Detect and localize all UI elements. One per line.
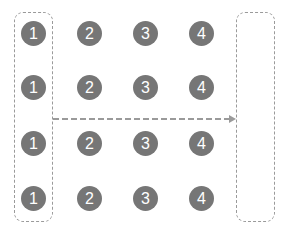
node-r1-c1: 1 bbox=[21, 21, 46, 46]
node-r4-c1: 1 bbox=[21, 186, 46, 211]
node-r1-c4: 4 bbox=[189, 21, 214, 46]
node-r1-c3: 3 bbox=[133, 21, 158, 46]
node-r2-c4: 4 bbox=[189, 75, 214, 100]
node-r4-c4: 4 bbox=[189, 186, 214, 211]
diagram-canvas: 1 2 3 4 1 2 3 4 1 2 3 4 1 2 3 4 bbox=[0, 0, 287, 236]
node-r2-c2: 2 bbox=[77, 75, 102, 100]
node-r3-c1: 1 bbox=[21, 131, 46, 156]
node-r4-c3: 3 bbox=[133, 186, 158, 211]
node-r3-c2: 2 bbox=[77, 131, 102, 156]
node-r4-c2: 2 bbox=[77, 186, 102, 211]
node-r2-c1: 1 bbox=[21, 75, 46, 100]
node-r2-c3: 3 bbox=[133, 75, 158, 100]
node-r1-c2: 2 bbox=[77, 21, 102, 46]
node-r3-c3: 3 bbox=[133, 131, 158, 156]
node-r3-c4: 4 bbox=[189, 131, 214, 156]
